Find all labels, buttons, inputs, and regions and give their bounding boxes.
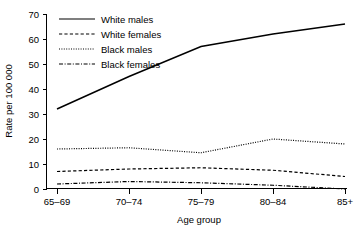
- legend-label-black-females: Black females: [101, 59, 160, 70]
- y-tick-label-10: 10: [28, 159, 39, 170]
- y-tick-label-40: 40: [28, 84, 39, 95]
- y-tick-label-50: 50: [28, 59, 39, 70]
- line-chart: 0 10 20 30 40 50 60 70 65–69 70–74 75–79…: [0, 0, 354, 231]
- chart-figure: 0 10 20 30 40 50 60 70 65–69 70–74 75–79…: [0, 0, 354, 231]
- x-tick-label-85-plus: 85+: [337, 196, 354, 207]
- legend-label-white-females: White females: [101, 29, 161, 40]
- x-axis-title: Age group: [177, 214, 221, 225]
- y-tick-label-0: 0: [34, 184, 39, 195]
- legend-label-black-males: Black males: [101, 44, 152, 55]
- y-tick-label-20: 20: [28, 134, 39, 145]
- y-tick-label-60: 60: [28, 34, 39, 45]
- y-tick-label-70: 70: [28, 9, 39, 20]
- y-tick-label-30: 30: [28, 109, 39, 120]
- legend-label-white-males: White males: [101, 14, 154, 25]
- x-tick-label-80-84: 80–84: [260, 196, 286, 207]
- x-tick-label-65-69: 65–69: [44, 196, 70, 207]
- x-tick-label-75-79: 75–79: [188, 196, 214, 207]
- y-axis-title: Rate per 100 000: [3, 64, 14, 137]
- x-tick-label-70-74: 70–74: [116, 196, 142, 207]
